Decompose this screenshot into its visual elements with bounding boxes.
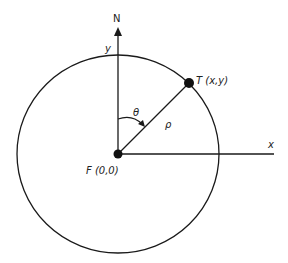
- target-label: T (x,y): [196, 75, 228, 86]
- target-point: [184, 78, 194, 88]
- north-label: N: [113, 13, 120, 24]
- diagram-svg: N y x T (x,y) F (0,0) θ ρ: [0, 0, 288, 263]
- angle-label: θ: [133, 107, 139, 118]
- y-axis-label: y: [104, 43, 112, 54]
- polar-diagram: N y x T (x,y) F (0,0) θ ρ: [0, 0, 288, 263]
- north-arrow-icon: [114, 27, 122, 36]
- range-line: [118, 83, 189, 154]
- origin-point: [114, 150, 123, 159]
- origin-label: F (0,0): [86, 165, 119, 176]
- range-label: ρ: [165, 119, 172, 130]
- x-axis-label: x: [267, 139, 274, 150]
- angle-arc: [118, 117, 142, 124]
